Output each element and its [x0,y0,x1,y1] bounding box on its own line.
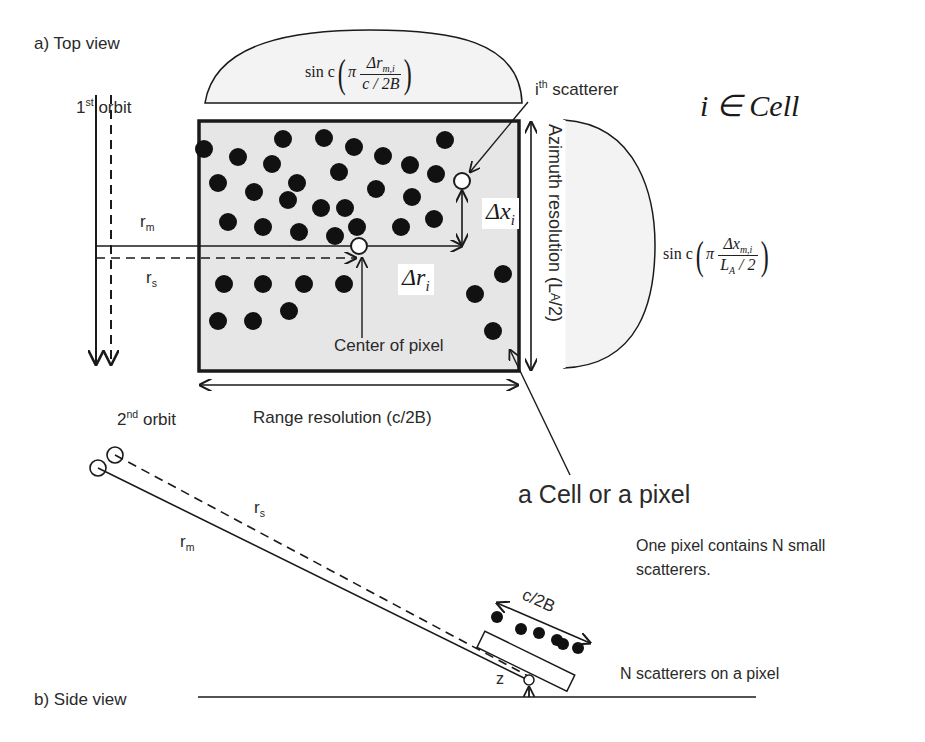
range-sinc-den: c / 2B [360,75,401,93]
rs-side-sub: s [260,507,265,519]
orbit1-text: orbit [98,98,131,117]
azimuth-res-text: Azimuth resolution (L [545,124,565,293]
azimuth-sinc-fn: sin c [663,245,693,262]
ith-text: scatterer [552,80,618,99]
azimuth-sinc-den: L [720,256,729,273]
range-sinc-formula: sin c(π Δrm,ic / 2B) [305,50,415,97]
set-notation: i ∈ Cell [700,88,799,123]
delta-r-label: Δri [398,264,434,295]
pixel-note-line2: scatterers. [636,558,825,582]
orbit1-sup: st [85,96,93,108]
orbit2-sup: nd [126,408,138,420]
rm-side-sub: m [186,541,195,553]
orbit2-text: orbit [143,410,176,429]
azimuth-res-sub: A [548,293,562,301]
azimuth-resolution-label: Azimuth resolution (LA/2) [544,124,565,322]
pixel-note-line1: One pixel contains N small [636,534,825,558]
center-of-pixel-label: Center of pixel [334,336,444,356]
azimuth-sinc-num-sub: m,i [740,244,752,255]
delta-x-base: Δx [486,198,511,224]
panel-a-label: a) Top view [34,34,120,54]
range-sinc-num-sub: m,i [382,63,394,74]
range-resolution-label: Range resolution (c/2B) [253,408,432,428]
orbit1-label: 1st orbit [76,96,131,118]
rm-label-side: rm [180,532,194,553]
pixel-center [351,238,367,254]
delta-x-sub: i [511,212,515,228]
pixel-note: One pixel contains N small scatterers. [636,534,825,582]
delta-r-base: Δr [402,264,425,290]
azimuth-res-end: /2) [545,301,565,322]
panel-b-label: b) Side view [34,690,127,710]
rm-sub: m [146,221,155,233]
delta-x-label: Δxi [482,198,519,229]
azimuth-sinc-lobe [564,120,655,368]
rs-label-top: rs [146,268,157,289]
orbit2-label: 2nd orbit [117,408,176,430]
side-note: N scatterers on a pixel [620,665,779,683]
cell-label: a Cell or a pixel [518,480,690,509]
ith-scatterer [454,173,470,189]
range-sinc-pi: π [348,63,356,80]
rm-label-top: rm [140,212,154,233]
azimuth-sinc-num: Δx [723,235,740,252]
rs-sub: s [152,277,157,289]
range-sinc-num: Δr [367,54,383,71]
azimuth-sinc-pi: π [706,245,714,262]
azimuth-sinc-formula: sin c(π Δxm,iLA / 2) [663,232,771,279]
z-label: z [496,670,504,688]
rs-label-side: rs [254,498,265,519]
delta-r-sub: i [425,278,429,294]
azimuth-sinc-den-end: / 2 [735,256,755,273]
ith-scatterer-label: ith scatterer [535,78,618,100]
ith-sup: th [539,78,548,90]
range-sinc-fn: sin c [305,63,335,80]
